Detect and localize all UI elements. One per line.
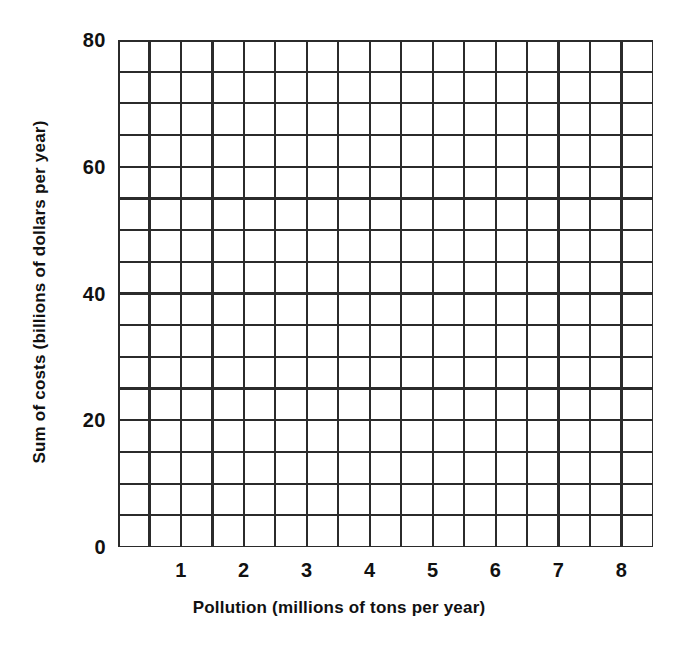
x-axis-ticks: 12345678 [0, 560, 678, 590]
x-tick-label: 4 [350, 560, 390, 580]
y-tick-label: 40 [46, 284, 106, 304]
y-tick-label: 0 [46, 537, 106, 557]
x-tick-label: 7 [539, 560, 579, 580]
y-tick-label: 60 [46, 157, 106, 177]
x-tick-label: 5 [413, 560, 453, 580]
y-axis-title: Sum of costs (billions of dollars per ye… [30, 32, 50, 552]
y-tick-label: 80 [46, 30, 106, 50]
x-axis-title: Pollution (millions of tons per year) [0, 598, 678, 618]
grid-lines [118, 40, 653, 547]
x-tick-label: 2 [224, 560, 264, 580]
x-tick-label: 6 [476, 560, 516, 580]
chart-figure: 020406080 12345678 Pollution (millions o… [0, 0, 678, 656]
x-tick-label: 1 [161, 560, 201, 580]
plot-area [118, 40, 653, 547]
y-tick-label: 20 [46, 410, 106, 430]
y-axis-ticks: 020406080 [42, 0, 106, 656]
x-tick-label: 8 [602, 560, 642, 580]
x-tick-label: 3 [287, 560, 327, 580]
